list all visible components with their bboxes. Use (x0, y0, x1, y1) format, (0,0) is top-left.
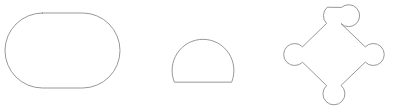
shape-flat-bottom-circle-dome (172, 39, 234, 81)
shapes-figure (0, 0, 393, 109)
figure-canvas (0, 0, 393, 109)
shape-diamond-with-circular-vertices (284, 5, 385, 105)
shape-stadium-rounded-rectangle (5, 13, 120, 88)
